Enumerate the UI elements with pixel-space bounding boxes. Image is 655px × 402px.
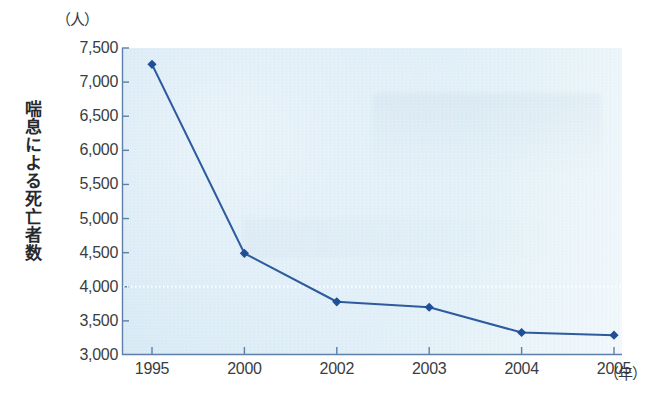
data-point-marker	[147, 60, 156, 69]
plot-area	[122, 48, 622, 355]
y-axis-tick-label: 7,500	[79, 39, 118, 57]
y-axis-tick-label: 6,500	[79, 107, 118, 125]
y-axis-tick-label: 7,000	[79, 73, 118, 91]
data-point-marker	[609, 331, 618, 340]
axis-frame	[123, 48, 623, 355]
data-line	[152, 64, 614, 335]
x-axis-tick-label: 2000	[227, 360, 261, 378]
x-axis-tick-label: 2002	[320, 360, 354, 378]
asthma-deaths-line-chart: （人） 喘息による死亡者数 3,0003,5004,0004,5005,0005…	[0, 0, 655, 402]
y-axis-title: 喘息による死亡者数	[16, 100, 44, 262]
y-axis-tick-label: 3,500	[79, 312, 118, 330]
y-axis-tick-label: 5,500	[79, 175, 118, 193]
y-axis-tick-label: 4,000	[79, 278, 118, 296]
data-point-marker	[332, 297, 341, 306]
data-point-marker	[517, 328, 526, 337]
x-axis-tick-label: 2004	[504, 360, 538, 378]
x-axis-tick-labels: 199520002002200320042005	[0, 360, 655, 386]
y-axis-unit-label: （人）	[56, 8, 98, 29]
data-series-svg	[122, 48, 622, 355]
x-axis-tick-label: 1995	[135, 360, 169, 378]
data-point-marker	[425, 303, 434, 312]
y-axis-tick-label: 4,500	[79, 244, 118, 262]
x-axis-tick-label: 2003	[412, 360, 446, 378]
y-axis-tick-label: 5,000	[79, 210, 118, 228]
y-axis-tick-labels: 3,0003,5004,0004,5005,0005,5006,0006,500…	[50, 48, 118, 355]
y-axis-tick-label: 6,000	[79, 141, 118, 159]
x-axis-unit-label: （年）	[604, 362, 646, 383]
data-point-marker	[240, 249, 249, 258]
